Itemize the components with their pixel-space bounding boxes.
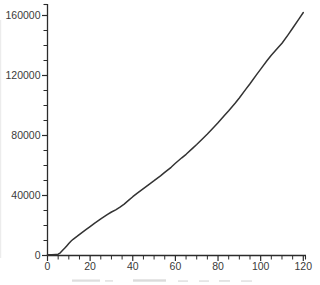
x-tick-label: 80 [212, 260, 224, 272]
cropped-caption-remnant [72, 279, 252, 282]
x-tick-label: 100 [252, 260, 270, 272]
x-tick-label: 60 [170, 260, 182, 272]
data-series-line [48, 13, 304, 255]
scan-edge-artifact [0, 20, 1, 258]
y-tick-label: 80000 [11, 129, 40, 141]
x-tick-label: 20 [84, 260, 96, 272]
y-tick-label: 160000 [5, 9, 40, 21]
x-tick-label: 120 [295, 260, 313, 272]
plot-area: 02040608010012004000080000120000160000 [5, 4, 312, 272]
y-tick-label: 120000 [5, 69, 40, 81]
y-tick-label: 40000 [11, 189, 40, 201]
x-tick-label: 0 [45, 260, 51, 272]
line-chart: 02040608010012004000080000120000160000 [0, 0, 320, 285]
y-tick-label: 0 [35, 249, 41, 261]
chart-figure: 02040608010012004000080000120000160000 [0, 0, 320, 285]
x-tick-label: 40 [127, 260, 139, 272]
